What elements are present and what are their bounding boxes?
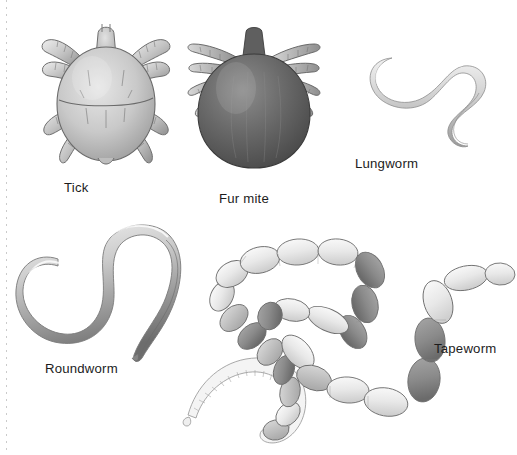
label-tick: Tick	[64, 180, 88, 195]
tapeworm-segments	[205, 237, 516, 442]
tick-posterior-point	[98, 158, 114, 164]
label-fur-mite: Fur mite	[219, 191, 269, 206]
left-margin-rule	[6, 0, 7, 455]
tapeworm-scolex	[183, 417, 191, 426]
figure-tick	[28, 12, 188, 177]
roundworm-highlight	[25, 226, 168, 330]
illustration-plate: Tick	[0, 0, 517, 455]
lungworm-highlight	[376, 61, 463, 100]
label-lungworm: Lungworm	[355, 156, 418, 171]
figure-fur-mite	[182, 26, 327, 176]
figure-lungworm	[364, 46, 509, 151]
fur-mite-body	[198, 54, 310, 168]
label-tapeworm: Tapeworm	[434, 341, 496, 356]
label-roundworm: Roundworm	[45, 361, 118, 376]
roundworm-body	[16, 225, 181, 362]
lungworm-body	[370, 58, 486, 147]
